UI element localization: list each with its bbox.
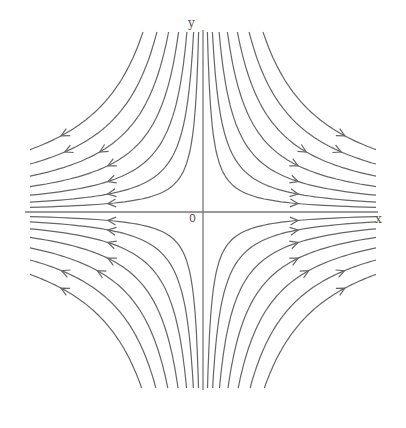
y-axis-label: y: [188, 16, 195, 30]
trajectory-curve: [30, 248, 168, 388]
arrow-icon: [100, 145, 109, 153]
origin-label: 0: [189, 212, 196, 225]
trajectory-curve: [30, 237, 178, 388]
arrow-icon: [300, 271, 309, 278]
x-axis-label: x: [375, 212, 382, 226]
trajectory-curve: [30, 32, 194, 202]
phase-portrait: [0, 0, 406, 428]
trajectory-curve: [227, 32, 376, 187]
trajectory-curve: [228, 237, 376, 388]
trajectory-curve: [212, 32, 376, 202]
trajectory-curve: [237, 32, 376, 176]
arrow-icon: [297, 145, 306, 153]
trajectory-curve: [30, 32, 179, 187]
trajectory-curve: [220, 229, 377, 388]
trajectory-curve: [30, 32, 199, 207]
arrow-icon: [97, 271, 106, 278]
trajectory-curve: [30, 32, 169, 176]
trajectory-curve: [207, 32, 376, 207]
trajectory-curve: [30, 229, 187, 388]
trajectory-curve: [238, 248, 376, 388]
